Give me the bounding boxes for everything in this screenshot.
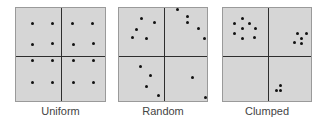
individual-dot: [31, 43, 34, 46]
individual-dot: [254, 27, 257, 30]
individual-dot: [233, 22, 236, 25]
individual-dot: [300, 37, 303, 40]
individual-dot: [176, 8, 179, 11]
individual-dot: [253, 36, 256, 39]
individual-dot: [31, 81, 34, 84]
individual-dot: [204, 96, 207, 99]
individual-dot: [92, 42, 95, 45]
individual-dot: [241, 27, 244, 30]
individual-dot: [191, 76, 194, 79]
individual-dot: [91, 22, 94, 25]
label-clumped: Clumped: [222, 104, 312, 118]
individual-dot: [275, 89, 278, 92]
individual-dot: [71, 22, 74, 25]
individual-dot: [140, 17, 143, 20]
vertical-divider: [61, 8, 62, 101]
individual-dot: [51, 59, 54, 62]
panel-random: [118, 7, 208, 102]
individual-dot: [92, 59, 95, 62]
individual-dot: [92, 81, 95, 84]
individual-dot: [157, 94, 160, 97]
individual-dot: [131, 36, 134, 39]
individual-dot: [153, 21, 156, 24]
individual-dot: [197, 27, 200, 30]
horizontal-divider: [16, 56, 105, 57]
individual-dot: [51, 81, 54, 84]
individual-dot: [139, 65, 142, 68]
individual-dot: [186, 21, 189, 24]
individual-dot: [248, 22, 251, 25]
individual-dot: [241, 37, 244, 40]
horizontal-divider: [223, 56, 311, 57]
vertical-divider: [164, 8, 165, 101]
individual-dot: [31, 59, 34, 62]
individual-dot: [149, 74, 152, 77]
individual-dot: [135, 28, 138, 31]
individual-dot: [72, 81, 75, 84]
horizontal-divider: [119, 56, 207, 57]
label-random: Random: [118, 104, 208, 118]
individual-dot: [241, 17, 244, 20]
individual-dot: [300, 42, 303, 45]
individual-dot: [51, 22, 54, 25]
individual-dot: [51, 42, 54, 45]
individual-dot: [145, 85, 148, 88]
individual-dot: [145, 37, 148, 40]
individual-dot: [279, 84, 282, 87]
individual-dot: [279, 89, 282, 92]
individual-dot: [31, 22, 34, 25]
individual-dot: [72, 59, 75, 62]
individual-dot: [305, 32, 308, 35]
vertical-divider: [268, 8, 269, 101]
individual-dot: [186, 15, 189, 18]
panel-clumped: [222, 7, 312, 102]
individual-dot: [296, 32, 299, 35]
individual-dot: [233, 32, 236, 35]
individual-dot: [203, 37, 206, 40]
individual-dot: [293, 41, 296, 44]
individual-dot: [72, 43, 75, 46]
label-uniform: Uniform: [15, 104, 106, 118]
panel-uniform: [15, 7, 106, 102]
